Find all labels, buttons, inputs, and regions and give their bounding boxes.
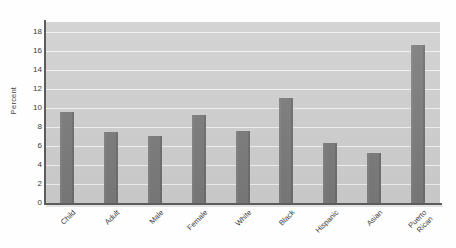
x-axis-tick-label: Hispanic — [292, 208, 341, 248]
x-axis-tick-label: Black — [248, 208, 297, 248]
x-axis-tick-label: Child — [29, 208, 78, 248]
x-axis-tick-label: Female — [160, 208, 209, 248]
x-axis-tick-label: Adult — [72, 208, 121, 248]
x-axis-tick-label: Puerto Rican — [380, 208, 436, 248]
x-axis-tick-label: Male — [116, 208, 165, 248]
x-axis-tick-label: White — [204, 208, 253, 248]
x-axis-tick-label: Asian — [336, 208, 385, 248]
x-axis-tick-label-group: ChildAdultMaleFemaleWhiteBlackHispanicAs… — [0, 0, 456, 248]
bar-chart-figure: Percent 024681012141618 ChildAdultMaleFe… — [0, 0, 456, 248]
